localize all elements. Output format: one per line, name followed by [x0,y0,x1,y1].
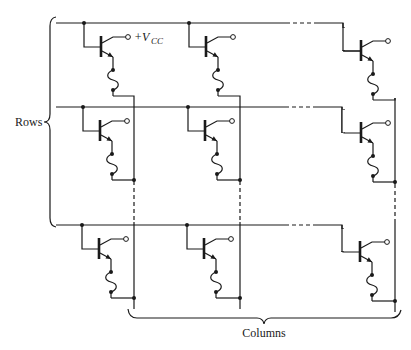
columns-brace [128,309,401,324]
cell-r1c3 [343,27,395,100]
cell-r2c2 [188,107,242,182]
memory-array-diagram: Rows Columns [0,0,411,350]
cell-r3c1 [82,225,136,300]
cell-r3c3 [343,228,397,303]
cell-r1c2 [189,23,240,97]
rows-label: Rows [15,115,43,129]
vcc-subscript: CC [151,36,164,46]
columns-label: Columns [242,326,286,340]
rows-brace [44,17,56,227]
vcc-prefix: +V [134,30,151,44]
vcc-label: +V CC [134,30,164,46]
cell-r2c1 [83,107,136,182]
cell-r3c2 [187,225,242,300]
cell-r1c1 [84,23,134,97]
cell-r2c3 [344,109,397,184]
